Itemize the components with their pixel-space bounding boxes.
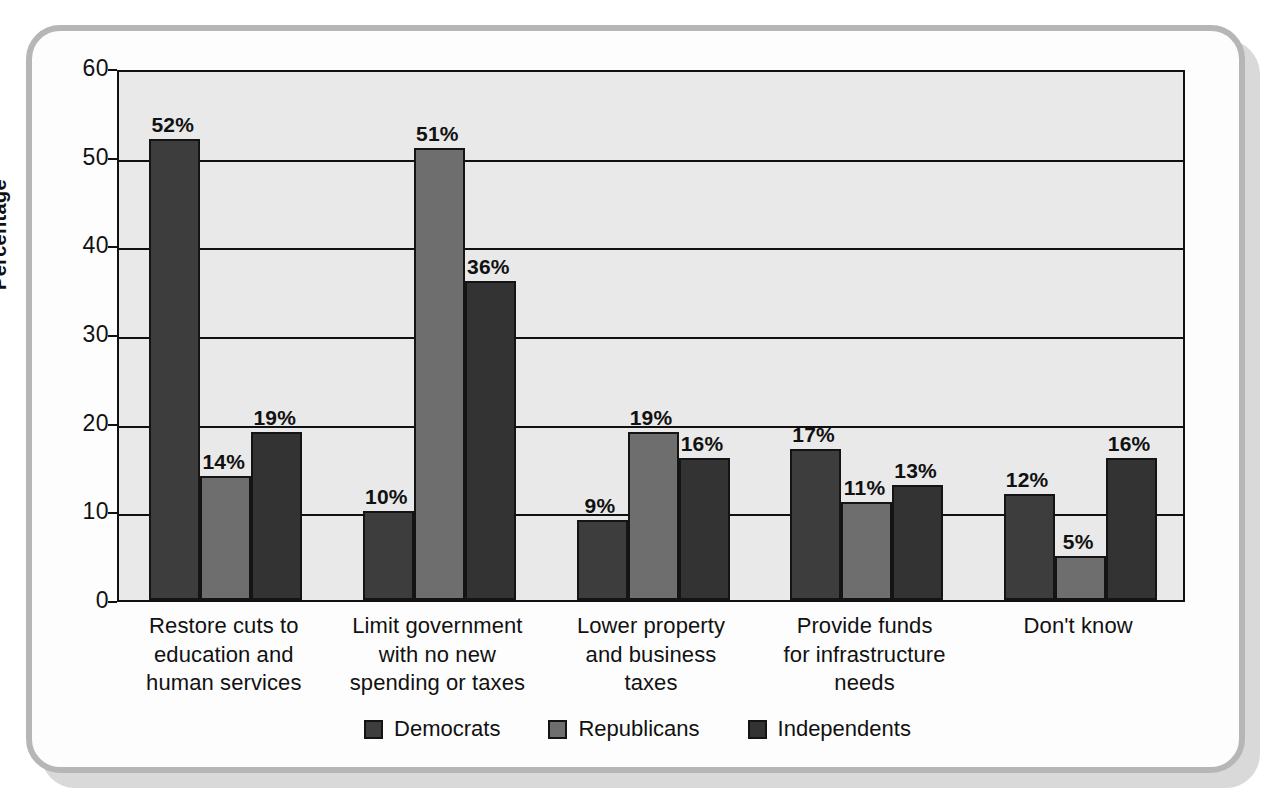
category-label-line: with no new [331, 641, 545, 670]
bar-value-label: 19% [237, 406, 312, 430]
bar-democrats-3 [790, 449, 841, 600]
x-axis-category-label: Lower propertyand businesstaxes [544, 612, 758, 698]
category-label-line: Lower property [544, 612, 758, 641]
bar-independents-1 [465, 281, 516, 600]
bar-republicans-0 [200, 476, 251, 600]
chart-container: Percentage 6050403020100 52%14%19%10%51%… [0, 0, 1275, 796]
bar-value-label: 52% [135, 113, 210, 137]
bar-independents-2 [679, 458, 730, 600]
bar-republicans-1 [414, 148, 465, 600]
bar-value-label: 16% [1092, 432, 1167, 456]
x-axis-category-label: Provide fundsfor infrastructureneeds [758, 612, 972, 698]
legend-swatch-icon [548, 720, 567, 739]
x-axis-category-label: Restore cuts toeducation andhuman servic… [117, 612, 331, 698]
bar-value-label: 12% [990, 468, 1065, 492]
legend-label: Democrats [394, 716, 500, 742]
legend-item-democrats[interactable]: Democrats [364, 716, 500, 742]
legend-item-republicans[interactable]: Republicans [548, 716, 699, 742]
category-label-line: education and [117, 641, 331, 670]
legend-swatch-icon [364, 720, 383, 739]
category-label-line: and business [544, 641, 758, 670]
chart-legend: DemocratsRepublicansIndependents [0, 716, 1275, 742]
legend-label: Independents [778, 716, 911, 742]
bar-democrats-2 [577, 520, 628, 600]
x-axis-category-label: Don't know [971, 612, 1185, 641]
legend-label: Republicans [578, 716, 699, 742]
bar-republicans-4 [1055, 556, 1106, 600]
y-axis-tick-label: 60 [39, 55, 109, 82]
gridline [119, 160, 1183, 162]
bar-value-label: 13% [878, 459, 953, 483]
category-label-line: human services [117, 669, 331, 698]
category-label-line: needs [758, 669, 972, 698]
y-axis-tick-label: 10 [39, 498, 109, 525]
y-axis-tick-label: 30 [39, 321, 109, 348]
bar-value-label: 10% [349, 485, 424, 509]
y-axis-tick-label: 50 [39, 144, 109, 171]
bar-value-label: 5% [1041, 530, 1116, 554]
legend-item-independents[interactable]: Independents [748, 716, 911, 742]
y-axis-tick-mark [108, 335, 117, 337]
plot-area [117, 70, 1185, 602]
bar-democrats-0 [149, 139, 200, 600]
bar-value-label: 19% [614, 406, 689, 430]
gridline [119, 337, 1183, 339]
category-label-line: Limit government [331, 612, 545, 641]
y-axis-tick-mark [108, 424, 117, 426]
bar-democrats-1 [363, 511, 414, 600]
x-axis-category-label: Limit governmentwith no newspending or t… [331, 612, 545, 698]
y-axis-tick-mark [108, 512, 117, 514]
bar-independents-3 [892, 485, 943, 600]
y-axis-tick-label: 0 [39, 587, 109, 614]
bar-value-label: 16% [665, 432, 740, 456]
bar-value-label: 17% [776, 423, 851, 447]
bar-republicans-3 [841, 502, 892, 600]
y-axis-tick-mark [108, 158, 117, 160]
y-axis-tick-label: 20 [39, 410, 109, 437]
gridline [119, 248, 1183, 250]
category-label-line: taxes [544, 669, 758, 698]
legend-swatch-icon [748, 720, 767, 739]
category-label-line: Don't know [971, 612, 1185, 641]
category-label-line: for infrastructure [758, 641, 972, 670]
y-axis-tick-mark [108, 69, 117, 71]
bar-value-label: 9% [563, 494, 638, 518]
bar-value-label: 14% [186, 450, 261, 474]
y-axis-title: Percentage [0, 179, 11, 290]
y-axis-tick-mark [108, 246, 117, 248]
bar-value-label: 51% [400, 122, 475, 146]
y-axis-tick-label: 40 [39, 232, 109, 259]
category-label-line: spending or taxes [331, 669, 545, 698]
bar-value-label: 36% [451, 255, 526, 279]
category-label-line: Provide funds [758, 612, 972, 641]
category-label-line: Restore cuts to [117, 612, 331, 641]
y-axis-tick-mark [108, 601, 117, 603]
